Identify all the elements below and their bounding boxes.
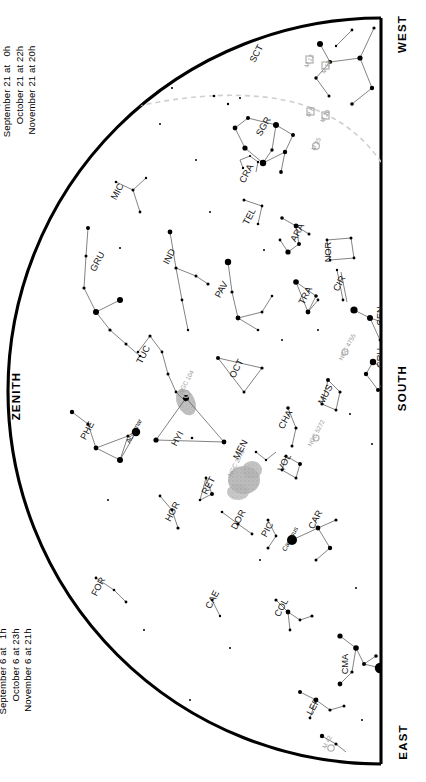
constellation-label: CAR (306, 508, 324, 530)
deep-sky-object-label: M 8 (304, 105, 315, 118)
constellation-label: SCO (385, 175, 395, 195)
constellation-label: CRU (375, 348, 385, 368)
constellation-label: MIC (109, 181, 126, 201)
constellation-label: CHA (276, 408, 294, 431)
date-time-row: September 6 at 1h (0, 628, 9, 714)
constellation-label: HYI (169, 429, 185, 447)
constellation-lines (72, 28, 390, 752)
deep-sky-object-label: NGC 4755 (337, 332, 357, 362)
star-chart: M 17M 18M 8M 20M 25NGC 104NGC 2070NGC 47… (0, 0, 426, 782)
cardinal-west: WEST (396, 15, 408, 53)
star-label: Achernar (124, 417, 143, 445)
constellation-label: CMA (340, 653, 350, 674)
constellation-label: PAV (213, 279, 230, 300)
date-times-bottom: July 6 at 5hAugust 6 at 3hSeptember 6 at… (0, 628, 35, 714)
constellation-label: LEP (305, 696, 322, 716)
cardinal-east: EAST (397, 724, 409, 759)
constellation-label: CAE (203, 589, 221, 611)
constellation-label: ARA (288, 221, 306, 243)
zenith-label: ZENITH (10, 372, 22, 421)
constellation-label: RET (200, 475, 218, 496)
constellation-label: VOL (276, 452, 294, 473)
sky-map-svg: M 17M 18M 8M 20M 25NGC 104NGC 2070NGC 47… (0, 0, 426, 782)
date-time-row: November 21 at 20h (27, 46, 40, 138)
constellation-label: TRA (297, 284, 315, 306)
date-time-row: September 21 at 0h (2, 46, 15, 138)
constellation-label: DOR (229, 508, 248, 531)
date-times-top: July 21 at 4hAugust 21 at 2hSeptember 21… (0, 46, 39, 138)
constellation-label: TUC (134, 344, 152, 366)
deep-sky-object-label: NGC 5272 (306, 418, 326, 448)
constellation-label: TEL (241, 207, 258, 227)
star-field (70, 26, 393, 745)
constellation-label: SGR (254, 115, 273, 138)
constellation-label: SCT (248, 43, 266, 64)
constellation-label: FOR (89, 575, 107, 597)
star-label: Canopus (281, 525, 301, 553)
date-time-row: October 21 at 22h (14, 46, 27, 138)
deep-sky-object-label: M 25 (309, 136, 322, 152)
constellation-label: MUS (316, 383, 335, 406)
date-time-row: November 6 at 21h (22, 628, 35, 714)
star-label: Sirius (382, 656, 396, 674)
constellation-label: GRU (88, 250, 107, 273)
constellation-label: PHE (78, 420, 96, 442)
constellation-labels: SCTSCOSGRCRAMICTELARANORLUPGRUINDPAVTRAC… (78, 43, 406, 717)
constellation-label: MEN (231, 438, 250, 461)
constellation-label: LUP (389, 233, 406, 254)
date-time-row: October 6 at 23h (9, 628, 22, 714)
constellation-label: NOR (323, 241, 333, 262)
cardinal-south: SOUTH (396, 365, 408, 411)
constellation-label: CIR (331, 274, 347, 293)
constellation-label: CEN (375, 306, 385, 326)
ecliptic-line (120, 95, 381, 162)
constellation-label: CRA (237, 162, 255, 185)
